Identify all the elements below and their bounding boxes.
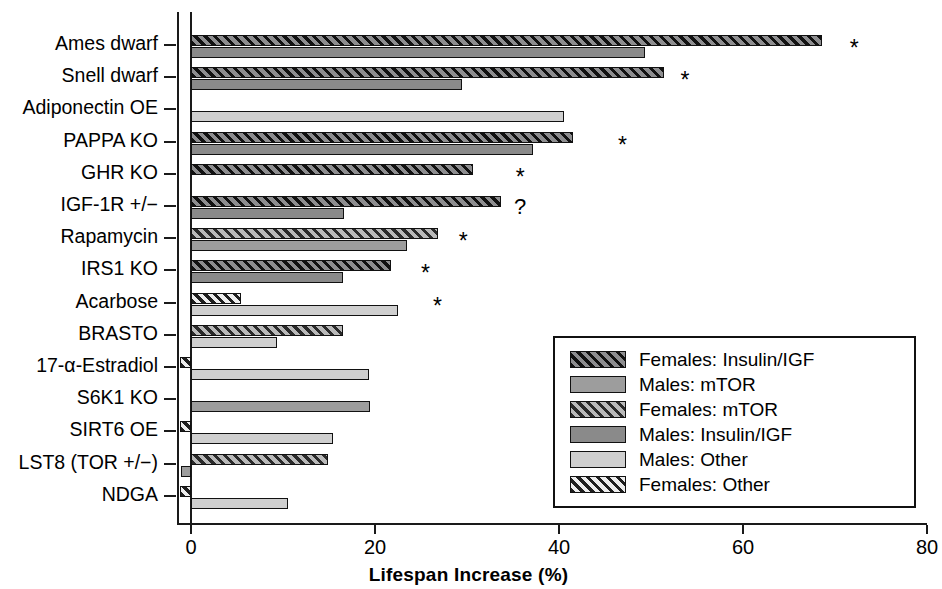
y-tick-8 <box>164 302 176 304</box>
category-label-4: GHR KO <box>0 161 158 184</box>
legend-swatch-mal-igf <box>570 426 626 443</box>
bar-females-10 <box>180 357 191 368</box>
bar-females-4 <box>191 164 473 175</box>
bar-females-5 <box>191 196 501 207</box>
category-label-7: IRS1 KO <box>0 257 158 280</box>
y-tick-5 <box>164 205 176 207</box>
bar-females-13 <box>191 454 328 465</box>
legend-swatch-fem-igf <box>570 351 626 368</box>
bar-females-1 <box>191 67 664 78</box>
x-tick-60 <box>742 525 744 534</box>
x-tick-label-60: 60 <box>713 536 773 559</box>
y-tick-13 <box>164 463 176 465</box>
bar-males-8 <box>191 305 398 316</box>
y-tick-11 <box>164 398 176 400</box>
annotation-asterisk-3: * <box>618 134 627 157</box>
category-label-2: Adiponectin OE <box>0 96 158 119</box>
legend-label-1: Males: mTOR <box>639 374 756 396</box>
category-label-14: NDGA <box>0 483 158 506</box>
x-tick-80 <box>926 525 928 534</box>
legend-label-5: Females: Other <box>639 474 770 496</box>
legend-item-2: Females: mTOR <box>555 397 914 422</box>
bar-females-12 <box>180 421 191 432</box>
bar-males-11 <box>191 401 370 412</box>
y-tick-0 <box>164 44 176 46</box>
bar-males-1 <box>191 79 462 90</box>
bar-males-12 <box>191 433 333 444</box>
y-tick-6 <box>164 237 176 239</box>
category-label-0: Ames dwarf <box>0 32 158 55</box>
category-label-1: Snell dwarf <box>0 64 158 87</box>
category-label-9: BRASTO <box>0 322 158 345</box>
category-label-11: S6K1 KO <box>0 386 158 409</box>
category-label-3: PAPPA KO <box>0 129 158 152</box>
category-label-5: IGF-1R +/− <box>0 193 158 216</box>
y-tick-10 <box>164 366 176 368</box>
x-tick-20 <box>374 525 376 534</box>
y-tick-14 <box>164 495 176 497</box>
bar-females-0 <box>191 35 822 46</box>
x-tick-label-40: 40 <box>529 536 589 559</box>
bar-females-14 <box>180 486 191 497</box>
bar-males-14 <box>191 498 288 509</box>
annotation-asterisk-0: * <box>850 37 859 60</box>
legend-swatch-fem-mtor <box>570 401 626 418</box>
annotation-question-5: ? <box>514 196 526 218</box>
y-tick-3 <box>164 141 176 143</box>
x-tick-40 <box>558 525 560 534</box>
y-tick-1 <box>164 76 176 78</box>
legend-item-3: Males: Insulin/IGF <box>555 422 914 447</box>
y-tick-4 <box>164 173 176 175</box>
annotation-asterisk-8: * <box>433 295 442 318</box>
bar-males-7 <box>191 272 343 283</box>
bar-males-6 <box>191 240 407 251</box>
legend-label-2: Females: mTOR <box>639 399 778 421</box>
category-label-12: SIRT6 OE <box>0 418 158 441</box>
x-tick-0 <box>190 525 192 534</box>
bar-females-7 <box>191 260 391 271</box>
x-tick-label-80: 80 <box>897 536 942 559</box>
bar-females-6 <box>191 228 438 239</box>
annotation-asterisk-6: * <box>459 230 468 253</box>
legend-label-0: Females: Insulin/IGF <box>639 349 814 371</box>
category-label-8: Acarbose <box>0 290 158 313</box>
legend-swatch-fem-other <box>570 476 626 493</box>
annotation-asterisk-7: * <box>421 262 430 285</box>
bar-males-13 <box>181 466 191 477</box>
y-tick-2 <box>164 108 176 110</box>
bar-females-9 <box>191 325 343 336</box>
y-tick-12 <box>164 430 176 432</box>
x-axis-title: Lifespan Increase (%) <box>0 564 937 586</box>
annotation-asterisk-1: * <box>680 69 689 92</box>
category-label-10: 17-α-Estradiol <box>0 354 158 377</box>
legend-swatch-mal-mtor <box>570 376 626 393</box>
bar-males-9 <box>191 337 277 348</box>
annotation-asterisk-4: * <box>516 166 525 189</box>
legend-item-0: Females: Insulin/IGF <box>555 347 914 372</box>
bar-males-2 <box>191 111 564 122</box>
bar-females-3 <box>191 132 573 143</box>
bar-males-10 <box>191 369 369 380</box>
x-tick-label-20: 20 <box>345 536 405 559</box>
bar-males-5 <box>191 208 344 219</box>
bar-males-0 <box>191 47 645 58</box>
y-tick-9 <box>164 334 176 336</box>
legend-item-1: Males: mTOR <box>555 372 914 397</box>
bar-males-3 <box>191 144 533 155</box>
x-tick-label-0: 0 <box>161 536 221 559</box>
legend-swatch-mal-other <box>570 451 626 468</box>
y-tick-7 <box>164 269 176 271</box>
category-label-13: LST8 (TOR +/−) <box>0 451 158 474</box>
category-label-6: Rapamycin <box>0 225 158 248</box>
legend-item-4: Males: Other <box>555 447 914 472</box>
legend-label-4: Males: Other <box>639 449 748 471</box>
legend-item-5: Females: Other <box>555 472 914 497</box>
bar-females-8 <box>191 293 241 304</box>
legend-label-3: Males: Insulin/IGF <box>639 424 792 446</box>
chart-legend: Females: Insulin/IGFMales: mTORFemales: … <box>553 336 916 508</box>
